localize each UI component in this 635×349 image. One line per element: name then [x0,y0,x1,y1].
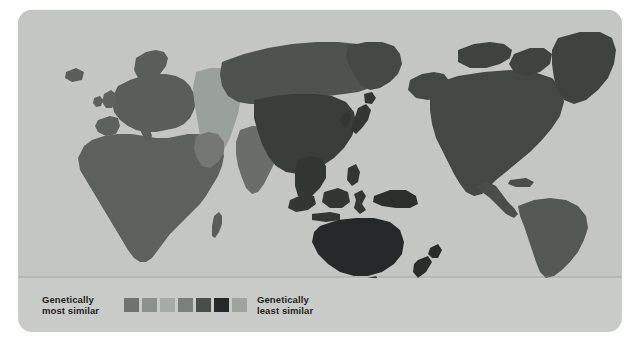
world-map [18,10,622,278]
legend-swatch-4 [178,298,193,312]
figure-card: Genetically most similar Genetically lea… [18,10,622,332]
legend-swatch-strip [124,298,247,312]
legend-swatch-3 [160,298,175,312]
legend-swatch-5 [196,298,211,312]
legend-label-most-similar: Genetically most similar [42,294,118,317]
legend-swatch-1 [124,298,139,312]
legend-swatch-7 [232,298,247,312]
legend-swatch-6 [214,298,229,312]
legend-swatch-2 [142,298,157,312]
world-map-svg [18,10,622,278]
legend-label-least-similar: Genetically least similar [257,294,313,317]
map-legend: Genetically most similar Genetically lea… [18,278,622,332]
